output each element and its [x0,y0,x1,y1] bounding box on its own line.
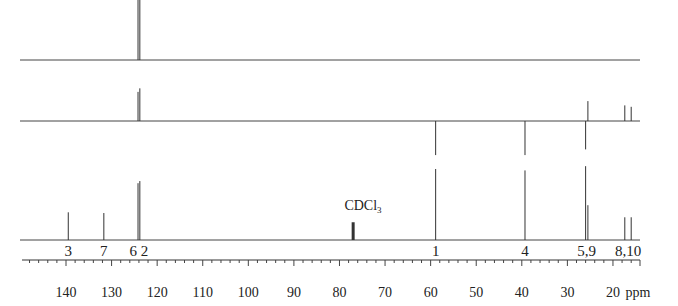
peak-label: 7 [100,243,108,259]
tick-label: 50 [469,285,483,300]
peak-label: 6 2 [130,243,149,259]
trace-3 [20,166,640,240]
tick-label: 30 [560,285,574,300]
tick-label: 40 [515,285,529,300]
trace-2 [20,88,640,155]
nmr-spectrum-chart: 1401301201101009080706050403020 376 2145… [0,0,678,306]
tick-label: 110 [192,285,212,300]
peak-label: 3 [65,243,73,259]
tick-label: 120 [147,285,168,300]
tick-label: 70 [378,285,392,300]
peak-label: 4 [521,243,529,259]
spectrum-traces [20,0,640,240]
peak-label: 1 [432,243,440,259]
solvent-label-main: CDCl [344,198,377,213]
tick-label: 130 [101,285,122,300]
tick-label: 80 [332,285,346,300]
tick-label: 140 [56,285,77,300]
peak-label: 8,10 [615,243,641,259]
peak-annotations: 376 2145,98,10 [65,243,642,259]
tick-label: 100 [238,285,259,300]
solvent-label: CDCl3 [344,198,382,215]
axis-unit-label: ppm [626,285,651,300]
trace-1 [20,0,640,60]
tick-label: 20 [606,285,620,300]
ppm-axis: 1401301201101009080706050403020 [22,260,640,300]
tick-label: 90 [287,285,301,300]
solvent-label-subscript: 3 [377,205,382,215]
peak-label: 5,9 [577,243,596,259]
tick-label: 60 [424,285,438,300]
